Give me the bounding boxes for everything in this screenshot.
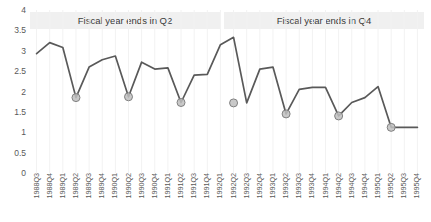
plot-area <box>30 10 424 173</box>
line-chart: Fiscal year ends in Q2 Fiscal year ends … <box>0 0 431 222</box>
x-axis-tick-label: 1992Q3 <box>243 173 250 199</box>
data-point-marker[interactable] <box>72 94 80 102</box>
x-axis-tick-label: 1993Q3 <box>295 173 302 199</box>
x-axis: 1988Q31988Q41989Q11989Q21989Q31989Q41990… <box>30 173 424 222</box>
x-axis-tick-label: 1991Q4 <box>203 173 210 199</box>
y-axis-tick-label: 3 <box>0 47 26 56</box>
x-axis-tick-label: 1990Q1 <box>111 173 118 199</box>
data-point-marker[interactable] <box>387 123 395 131</box>
x-axis-tick-label: 1989Q3 <box>85 173 92 199</box>
x-axis-tick-label: 1993Q4 <box>308 173 315 199</box>
y-axis-tick-label: 3.5 <box>0 26 26 35</box>
data-point-marker[interactable] <box>177 99 185 107</box>
x-axis-tick-label: 1994Q3 <box>348 173 355 199</box>
x-axis-tick-label: 1991Q1 <box>164 173 171 199</box>
x-axis-tick-label: 1989Q1 <box>59 173 66 199</box>
y-axis-tick-label: 4 <box>0 6 26 15</box>
series-line-chart-svg <box>30 10 424 173</box>
series-line <box>37 37 418 127</box>
x-axis-tick-label: 1991Q3 <box>190 173 197 199</box>
x-axis-tick-label: 1992Q2 <box>230 173 237 199</box>
y-axis-tick-label: 2 <box>0 87 26 96</box>
x-axis-tick-label: 1995Q3 <box>400 173 407 199</box>
data-point-marker[interactable] <box>125 93 133 101</box>
y-axis-tick-label: 1 <box>0 128 26 137</box>
x-axis-tick-label: 1990Q2 <box>125 173 132 199</box>
x-axis-tick-label: 1992Q4 <box>256 173 263 199</box>
data-point-marker[interactable] <box>282 110 290 118</box>
data-point-marker[interactable] <box>230 99 238 107</box>
x-axis-tick-label: 1995Q2 <box>387 173 394 199</box>
x-axis-tick-label: 1991Q2 <box>177 173 184 199</box>
x-axis-tick-label: 1995Q4 <box>413 173 420 199</box>
x-axis-tick-label: 1988Q3 <box>33 173 40 199</box>
x-axis-tick-label: 1994Q2 <box>335 173 342 199</box>
x-axis-tick-label: 1989Q2 <box>72 173 79 199</box>
y-axis-tick-label: 0 <box>0 169 26 178</box>
y-axis-tick-label: 2.5 <box>0 67 26 76</box>
x-axis-tick-label: 1990Q4 <box>151 173 158 199</box>
y-axis-tick-label: 1.5 <box>0 108 26 117</box>
x-axis-tick-label: 1994Q4 <box>361 173 368 199</box>
x-axis-tick-label: 1993Q1 <box>269 173 276 199</box>
x-axis-tick-label: 1993Q2 <box>282 173 289 199</box>
data-point-marker[interactable] <box>335 112 343 120</box>
y-axis: 43.532.521.510.50 <box>0 0 30 222</box>
x-axis-tick-label: 1989Q4 <box>98 173 105 199</box>
x-axis-tick-label: 1992Q1 <box>216 173 223 199</box>
x-axis-tick-label: 1988Q4 <box>46 173 53 199</box>
x-axis-tick-label: 1995Q1 <box>374 173 381 199</box>
y-axis-tick-label: 0.5 <box>0 148 26 157</box>
x-axis-tick-label: 1994Q1 <box>322 173 329 199</box>
x-axis-tick-label: 1990Q3 <box>138 173 145 199</box>
